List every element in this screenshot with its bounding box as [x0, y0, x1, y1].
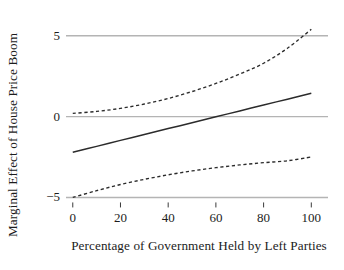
x-axis-ticks: [73, 202, 312, 207]
chart-figure: Marginal Effect of House Price Boom Perc…: [0, 0, 344, 270]
series-line: [73, 157, 312, 197]
series-line: [73, 93, 312, 152]
gridlines: [66, 36, 328, 198]
series-line: [73, 29, 312, 113]
plot-area: [0, 0, 344, 270]
series-layer: [73, 29, 312, 197]
